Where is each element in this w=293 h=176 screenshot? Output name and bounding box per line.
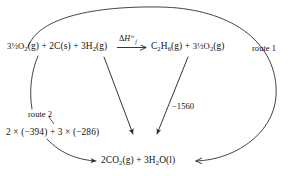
sum-plus: + xyxy=(47,127,57,137)
multiply-sign-1: × xyxy=(11,127,21,137)
route-1-label: route 1 xyxy=(252,44,276,53)
co2-formation-value: (−394) xyxy=(21,127,47,137)
h2o-coefficient: 3 xyxy=(58,127,63,137)
water-term: 3H2O(l) xyxy=(144,155,175,165)
route-1-ellipse-path xyxy=(28,7,276,161)
remaining-oxygen-term: 3½O2(g) xyxy=(193,41,225,51)
route-2-curve-lower xyxy=(47,139,96,161)
bottom-products-plus: + xyxy=(134,155,144,165)
reactant-plus-2: + xyxy=(71,41,81,51)
hydrogen-term: 3H2(g) xyxy=(81,41,107,51)
route-2-label: route 2 xyxy=(28,110,52,119)
carbon-dioxide-term: 2CO2(g) xyxy=(101,155,134,165)
multiply-sign-2: × xyxy=(63,127,73,137)
ethane-combustion-arrow xyxy=(157,57,188,134)
reactants-combustion-arrow xyxy=(104,57,133,134)
excess-oxygen-term: 3½O2(g) xyxy=(7,41,39,51)
hess-cycle-diagram: 3½O2(g)+2C(s)+3H2(g) ΔH⦵f C2H6(g)+3½O2(g… xyxy=(0,0,293,176)
bottom-products-expression: 2CO2(g)+3H2O(l) xyxy=(101,156,175,167)
reactants-expression: 3½O2(g)+2C(s)+3H2(g) xyxy=(7,42,107,53)
diagram-vector-layer xyxy=(0,0,293,176)
ethane-term: C2H6(g) xyxy=(151,41,182,51)
carbon-term: 2C(s) xyxy=(49,41,70,51)
h2o-formation-value: (−286) xyxy=(73,127,99,137)
formation-subscript: f xyxy=(135,39,137,45)
combustion-enthalpy-value: −1560 xyxy=(172,102,194,111)
top-products-expression: C2H6(g)+3½O2(g) xyxy=(151,42,225,53)
enthalpy-of-formation-label: ΔH⦵f xyxy=(119,33,137,45)
reactant-plus-1: + xyxy=(39,41,49,51)
formation-enthalpy-sum: 2×(−394)+3×(−286) xyxy=(6,128,99,137)
top-products-plus: + xyxy=(182,41,192,51)
route-2-curve-upper xyxy=(31,56,38,109)
